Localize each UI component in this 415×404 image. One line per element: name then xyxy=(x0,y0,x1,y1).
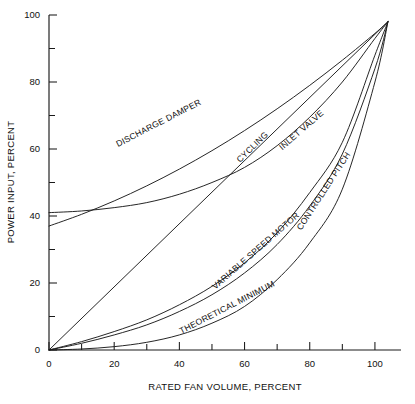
curve-label-variable-speed-motor: VARIABLE SPEED MOTOR xyxy=(210,210,301,291)
x-tick-label: 60 xyxy=(239,358,250,369)
x-tick-label: 20 xyxy=(109,358,120,369)
chart-canvas: 020406080100 020406080100 DISCHARGE DAMP… xyxy=(0,0,415,404)
curve-labels: DISCHARGE DAMPERINLET VALVECYCLINGCONTRO… xyxy=(114,97,352,336)
y-axis-tick-labels: 020406080100 xyxy=(24,9,40,355)
curve-label-cycling: CYCLING xyxy=(234,129,270,164)
curve-label-theoretical-minimum: THEORETICAL MINIMUM xyxy=(178,279,277,336)
curve-label-inlet-valve: INLET VALVE xyxy=(277,108,326,152)
y-axis-title: POWER INPUT, PERCENT xyxy=(5,121,16,244)
x-tick-label: 80 xyxy=(304,358,315,369)
x-axis-ticks xyxy=(49,342,375,350)
curve-cycling xyxy=(49,22,388,350)
y-tick-label: 0 xyxy=(35,344,40,355)
x-tick-label: 0 xyxy=(46,358,51,369)
x-tick-label: 40 xyxy=(174,358,185,369)
curve-label-controlled-pitch: CONTROLLED PITCH xyxy=(295,150,353,232)
x-axis-title: RATED FAN VOLUME, PERCENT xyxy=(148,381,302,392)
y-tick-label: 40 xyxy=(29,210,40,221)
y-axis-ticks xyxy=(49,15,57,350)
y-tick-label: 60 xyxy=(29,143,40,154)
y-tick-label: 20 xyxy=(29,277,40,288)
curve-inlet-valve xyxy=(49,22,388,213)
data-curves xyxy=(49,22,388,350)
curve-discharge-damper xyxy=(49,22,388,226)
curve-label-discharge-damper: DISCHARGE DAMPER xyxy=(114,97,202,149)
y-tick-label: 80 xyxy=(29,76,40,87)
x-tick-label: 100 xyxy=(367,358,383,369)
fan-power-chart: 020406080100 020406080100 DISCHARGE DAMP… xyxy=(0,0,415,404)
y-tick-label: 100 xyxy=(24,9,40,20)
x-axis-tick-labels: 020406080100 xyxy=(46,358,383,369)
axes-group xyxy=(49,15,401,350)
